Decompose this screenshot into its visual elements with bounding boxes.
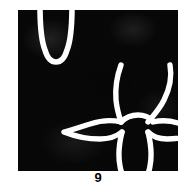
antelope-head-full-icon xyxy=(64,65,178,171)
halftone-image-plate xyxy=(18,10,178,171)
figure-plate-9: 9 xyxy=(0,0,188,186)
antelope-outlines-group xyxy=(18,10,178,171)
figure-caption-number: 9 xyxy=(18,170,178,185)
antelope-head-partial-icon xyxy=(40,10,72,62)
